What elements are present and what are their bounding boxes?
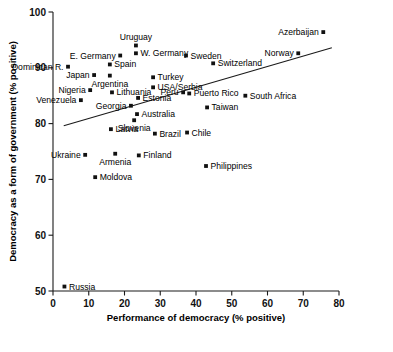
data-point-label-ukraine: Ukraine: [51, 150, 81, 160]
data-point-label-philippines: Philippines: [211, 161, 253, 171]
data-point-marker: [118, 54, 122, 58]
data-point-label-venezuela: Venezuela: [36, 95, 76, 105]
x-axis-title: Performance of democracy (% positive): [107, 312, 285, 323]
x-tick-label: 20: [119, 298, 131, 309]
data-point-label-russia: Russia: [69, 282, 95, 292]
data-point-marker: [296, 51, 300, 55]
data-point-label-nigeria: Nigeria: [58, 85, 85, 95]
data-point-marker: [135, 112, 139, 116]
data-point-marker: [153, 132, 157, 136]
x-tick-label: 80: [333, 298, 345, 309]
data-point-label-estonia: Estonia: [143, 93, 172, 103]
y-tick-label: 70: [35, 174, 47, 185]
data-point-marker: [66, 65, 70, 69]
data-point-marker: [129, 104, 133, 108]
data-point-label-taiwan: Taiwan: [212, 102, 239, 112]
x-tick-label: 30: [155, 298, 167, 309]
x-tick-label: 50: [226, 298, 238, 309]
data-point-marker: [211, 61, 215, 65]
data-point-marker: [83, 153, 87, 157]
data-point-marker: [187, 92, 191, 96]
data-point-label-armenia: Armenia: [99, 157, 131, 167]
data-point-marker: [109, 127, 113, 131]
data-point-marker: [151, 85, 155, 89]
data-point-marker: [321, 30, 325, 34]
data-point-label-japan: Japan: [66, 70, 90, 80]
x-tick-label: 10: [83, 298, 95, 309]
data-point-label-finland: Finland: [143, 150, 171, 160]
y-axis-title: Democracy as a form of government (% pos…: [7, 41, 18, 262]
data-point-marker: [92, 73, 96, 77]
data-point-label-turkey: Turkey: [158, 72, 185, 82]
data-point-label-latvia: Latvia: [115, 124, 138, 134]
data-point-label-spain: Spain: [114, 59, 136, 69]
data-point-marker: [137, 154, 141, 158]
data-point-marker: [63, 285, 67, 289]
data-point-label-w-germany: W. Germany: [140, 48, 188, 58]
chart-canvas: 010203040506070805060708090100Performanc…: [0, 0, 393, 352]
data-point-marker: [93, 175, 97, 179]
data-point-marker: [108, 63, 112, 67]
data-point-label-switzerland: Switzerland: [218, 58, 263, 68]
x-tick-label: 0: [50, 298, 56, 309]
y-tick-label: 80: [35, 118, 47, 129]
data-point-marker: [79, 98, 83, 102]
data-point-marker: [134, 44, 138, 48]
data-point-marker: [151, 75, 155, 79]
y-tick-label: 100: [29, 7, 46, 18]
x-tick-label: 60: [262, 298, 274, 309]
x-tick-label: 40: [190, 298, 202, 309]
data-point-label-georgia: Georgia: [96, 101, 127, 111]
data-point-marker: [136, 96, 140, 100]
data-point-label-uruguay: Uruguay: [120, 32, 153, 42]
scatter-chart: 010203040506070805060708090100Performanc…: [0, 0, 393, 352]
data-point-label-azerbaijan: Azerbaijan: [278, 27, 319, 37]
x-tick-label: 70: [298, 298, 310, 309]
data-point-marker: [108, 74, 112, 78]
y-tick-label: 50: [35, 286, 47, 297]
data-point-marker: [132, 118, 136, 122]
data-point-marker: [113, 152, 117, 156]
data-point-label-puerto-rico: Puerto Rico: [194, 88, 239, 98]
data-point-label-australia: Australia: [142, 109, 176, 119]
data-point-label-south-africa: South Africa: [250, 91, 297, 101]
data-point-marker: [205, 106, 209, 110]
data-point-marker: [110, 90, 114, 94]
data-point-label-e-germany: E. Germany: [70, 51, 117, 61]
data-point-label-chile: Chile: [192, 128, 212, 138]
data-point-marker: [185, 131, 189, 135]
data-point-marker: [134, 51, 138, 55]
data-point-marker: [243, 94, 247, 98]
data-point-marker: [184, 54, 188, 58]
y-tick-label: 60: [35, 230, 47, 241]
data-point-marker: [181, 90, 185, 94]
data-point-label-dominican-r: Dominican R.: [12, 62, 64, 72]
data-point-marker: [88, 88, 92, 92]
data-point-marker: [204, 164, 208, 168]
data-point-label-brazil: Brazil: [159, 129, 181, 139]
data-point-label-moldova: Moldova: [100, 172, 133, 182]
data-point-label-norway: Norway: [265, 48, 295, 58]
